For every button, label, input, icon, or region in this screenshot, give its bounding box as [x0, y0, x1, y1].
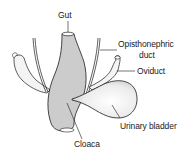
label-gut: Gut	[58, 11, 71, 20]
left-oviduct	[13, 53, 51, 93]
label-urinary-bladder: Urinary bladder	[120, 122, 177, 131]
label-cloaca: Cloaca	[74, 140, 100, 149]
gut-cloaca-body	[48, 32, 86, 132]
label-opisthonephric-duct-line1: Opisthonephric	[118, 40, 174, 49]
label-opisthonephric-duct-line2: duct	[139, 51, 155, 60]
cloaca-diagram	[0, 0, 190, 159]
label-oviduct: Oviduct	[137, 67, 165, 76]
